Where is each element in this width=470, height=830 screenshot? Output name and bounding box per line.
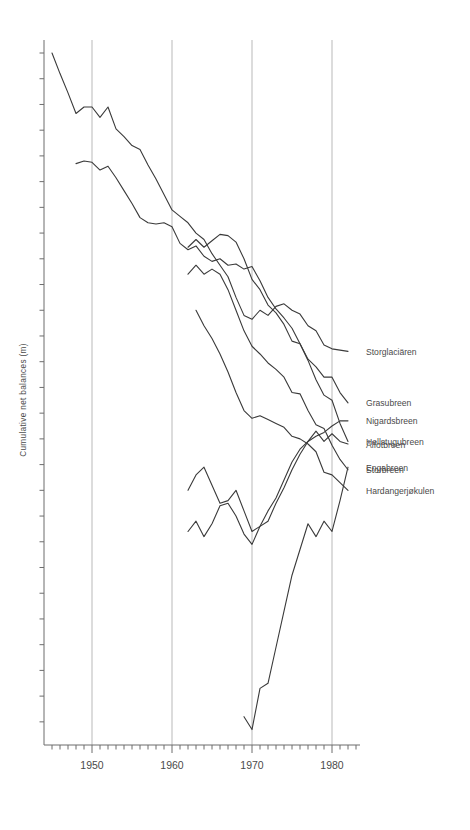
cumulative-net-balance-chart: 1950196019701980 StorglaciärenGrasubreen…	[0, 0, 470, 830]
series-label-storglaci-ren: Storglaciären	[366, 347, 417, 357]
axes-group	[44, 40, 360, 745]
y-axis-ticks	[40, 53, 45, 722]
series-label-hardangerj-kulen: Hardangerjøkulen	[366, 486, 435, 496]
x-tick-label-1980: 1980	[320, 759, 344, 771]
series-label-lfotbreen: Ålfotbreen	[366, 440, 405, 450]
x-axis-ticks	[52, 745, 356, 753]
series-line-grasubreen	[76, 161, 348, 403]
series-label-grasubreen: Grasubreen	[366, 398, 412, 408]
x-axis-tick-labels: 1950196019701980	[80, 759, 344, 771]
series-line-nigardsbreen	[188, 421, 348, 544]
series-line-hardangerj-kulen	[196, 310, 348, 490]
series-label-engabreen: Engabreen	[366, 463, 408, 473]
series-line-lfotbreen	[188, 431, 348, 531]
chart-canvas: 1950196019701980 StorglaciärenGrasubreen…	[0, 0, 470, 830]
series-line-storglaci-ren	[52, 53, 348, 351]
y-axis-label: Cumulative net balances (m)	[19, 343, 28, 457]
x-tick-label-1960: 1960	[160, 759, 184, 771]
series-line-storbreen	[188, 265, 348, 470]
series-label-nigardsbreen: Nigardsbreen	[366, 416, 418, 426]
x-tick-label-1950: 1950	[80, 759, 104, 771]
series-lines-group	[52, 53, 348, 730]
gridlines-group	[92, 40, 332, 745]
series-labels-group: StorglaciärenGrasubreenHellstugubreenSto…	[366, 347, 435, 496]
x-tick-label-1970: 1970	[240, 759, 264, 771]
y-axis-label-group: Cumulative net balances (m)	[19, 343, 28, 457]
